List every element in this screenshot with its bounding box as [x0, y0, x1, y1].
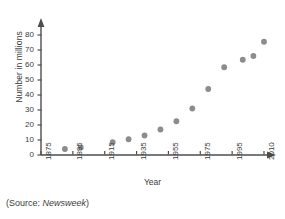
data-point [261, 39, 267, 45]
data-point [250, 53, 256, 59]
source-publication: Newsweek [43, 198, 87, 208]
x-axis-tick-label: 2010 [268, 142, 276, 160]
scatter-chart-figure: 01020304050607080 1875189519151935195519… [0, 0, 285, 219]
axis-ticks [38, 35, 265, 155]
x-axis-tick-label: 1915 [108, 142, 116, 160]
data-points [62, 39, 267, 152]
data-point [240, 57, 246, 63]
source-suffix: ) [86, 198, 89, 208]
data-point [221, 64, 227, 70]
y-axis-tick-label: 20 [18, 121, 34, 129]
y-axis-tick-label: 10 [18, 136, 34, 144]
x-axis-tick-label: 1975 [204, 142, 212, 160]
source-prefix: (Source: [6, 198, 43, 208]
x-axis-tick-label: 1955 [172, 142, 180, 160]
x-axis-tick-label: 1995 [236, 142, 244, 160]
data-point [205, 86, 211, 92]
y-axis-tick-label: 0 [18, 151, 34, 159]
plot-area [0, 0, 285, 195]
data-point [62, 146, 68, 152]
x-axis-tick-label: 1875 [45, 142, 53, 160]
data-point [158, 127, 164, 133]
data-point [189, 106, 195, 112]
y-axis-arrowhead [38, 18, 45, 27]
axes [38, 18, 276, 158]
x-axis-title: Year [0, 177, 285, 187]
data-point [173, 118, 179, 124]
x-axis-tick-label: 1935 [140, 142, 148, 160]
source-note: (Source: Newsweek) [6, 198, 89, 208]
chart-canvas [0, 0, 285, 195]
y-axis-title: Number in millions [14, 12, 24, 122]
data-point [142, 133, 148, 139]
data-point [126, 136, 132, 142]
x-axis-tick-label: 1895 [76, 142, 84, 160]
